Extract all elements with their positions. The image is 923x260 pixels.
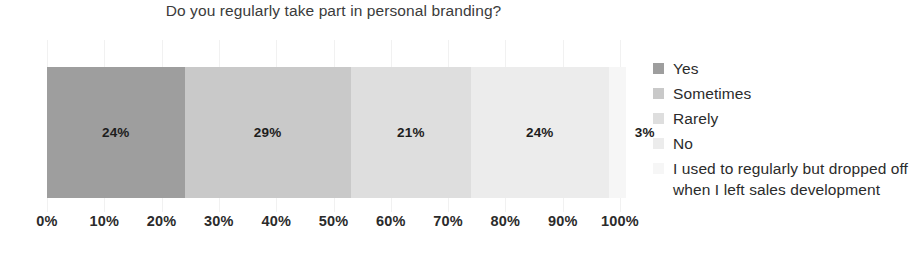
legend-swatch-icon xyxy=(653,163,664,174)
bar-segment-value-label: 24% xyxy=(526,125,554,140)
x-axis-tick-label: 50% xyxy=(319,213,349,229)
x-axis-tick-label: 20% xyxy=(147,213,177,229)
legend-swatch-icon xyxy=(653,113,664,124)
legend-item-label: Yes xyxy=(673,58,699,79)
legend-item-label: I used to regularly but dropped off when… xyxy=(673,158,915,200)
bar-segment-value-label: 24% xyxy=(102,125,130,140)
legend-swatch-icon xyxy=(653,63,664,74)
x-axis-tick-label: 30% xyxy=(204,213,234,229)
x-axis-tick-label: 90% xyxy=(548,213,578,229)
stacked-bar-chart: Do you regularly take part in personal b… xyxy=(0,0,923,260)
legend-item[interactable]: I used to regularly but dropped off when… xyxy=(653,158,915,200)
legend-item-label: Rarely xyxy=(673,108,718,129)
bar-segment[interactable]: 29% xyxy=(185,67,351,198)
legend-item[interactable]: Yes xyxy=(653,58,915,79)
x-axis-tick-label: 10% xyxy=(89,213,119,229)
x-axis-tick-label: 70% xyxy=(433,213,463,229)
bar-segment-value-label: 21% xyxy=(397,125,425,140)
legend-swatch-icon xyxy=(653,88,664,99)
bar-segment-value-label: 29% xyxy=(254,125,282,140)
legend-item[interactable]: No xyxy=(653,133,915,154)
bar-segment-value-label: 3% xyxy=(635,125,655,140)
x-axis-tick-label: 60% xyxy=(376,213,406,229)
chart-title: Do you regularly take part in personal b… xyxy=(47,2,620,20)
chart-legend: YesSometimesRarelyNoI used to regularly … xyxy=(653,58,915,204)
legend-item-label: No xyxy=(673,133,693,154)
bar-segment[interactable]: 24% xyxy=(47,67,185,198)
bar-segment[interactable]: 24% xyxy=(471,67,609,198)
bar-segment[interactable]: 3% xyxy=(609,67,626,198)
legend-item-label: Sometimes xyxy=(673,83,751,104)
legend-item[interactable]: Sometimes xyxy=(653,83,915,104)
x-axis-tick-label: 80% xyxy=(491,213,521,229)
bar-segment[interactable]: 21% xyxy=(351,67,471,198)
stacked-bar: 24%29%21%24%3% xyxy=(47,67,620,198)
legend-swatch-icon xyxy=(653,138,664,149)
x-axis-tick-labels: 0%10%20%30%40%50%60%70%80%90%100% xyxy=(47,213,620,241)
x-axis-tick-label: 0% xyxy=(36,213,57,229)
plot-area: 24%29%21%24%3% xyxy=(47,40,620,212)
legend-item[interactable]: Rarely xyxy=(653,108,915,129)
x-axis-tick-label: 100% xyxy=(601,213,639,229)
x-axis-tick-label: 40% xyxy=(261,213,291,229)
